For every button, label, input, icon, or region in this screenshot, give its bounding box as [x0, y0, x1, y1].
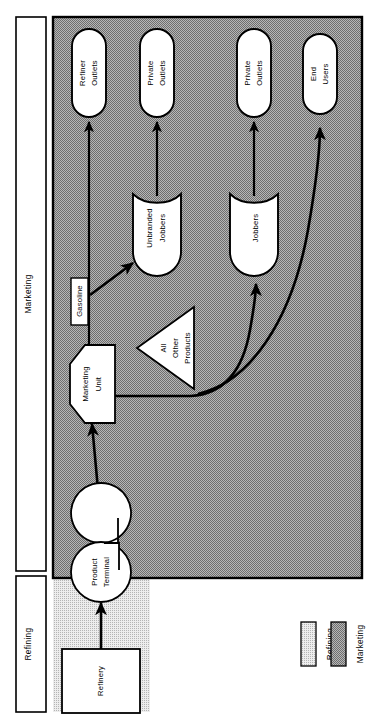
node-refinery[interactable]: Refinery: [62, 649, 140, 713]
node-private-outlets-a[interactable]: Private Outlets: [140, 29, 174, 117]
marketing-unit-label-1: Marketing: [81, 366, 90, 401]
unbranded-jobbers-label-2: Jobbers: [158, 214, 167, 242]
jobbers-label: Jobbers: [251, 214, 260, 242]
product-terminal-label-2: Terminal: [102, 557, 111, 587]
node-marketing-unit[interactable]: Marketing Unit: [70, 345, 115, 423]
marketing-unit-label-2: Unit: [94, 376, 103, 391]
legend: Refining Marketing: [301, 622, 365, 666]
gasoline-label: Gasoline: [75, 285, 84, 317]
private-outlets-a-label-1: Private: [146, 60, 155, 85]
end-users-label-2: Users: [321, 64, 330, 85]
unbranded-jobbers-shape: [133, 194, 181, 276]
legend-swatch-marketing: [331, 622, 346, 666]
private-outlets-a-label-2: Outlets: [158, 60, 167, 85]
end-users-label-1: End: [309, 67, 318, 81]
all-other-products-label-3: Products: [183, 332, 192, 364]
side-label-bands: Marketing Refining: [16, 17, 46, 712]
legend-item-marketing: Marketing: [331, 622, 365, 666]
product-terminal-shape: [71, 483, 131, 543]
private-outlets-b-label-1: Private: [243, 60, 252, 85]
refiner-outlets-label-2: Outlets: [90, 60, 99, 85]
private-outlets-b-label-2: Outlets: [255, 60, 264, 85]
refinery-label: Refinery: [96, 666, 105, 696]
product-terminal-circle: [71, 542, 131, 602]
node-end-users[interactable]: End Users: [303, 34, 337, 114]
legend-label-marketing: Marketing: [356, 625, 365, 664]
refining-band-label: Refining: [24, 627, 33, 660]
node-private-outlets-b[interactable]: Private Outlets: [237, 29, 271, 117]
node-refiner-outlets[interactable]: Refiner Outlets: [72, 29, 106, 117]
unbranded-jobbers-label-1: Unbranded: [145, 208, 154, 247]
node-unbranded-jobbers[interactable]: Unbranded Jobbers: [133, 194, 181, 276]
node-gasoline[interactable]: Gasoline: [71, 278, 88, 325]
all-other-products-label-2: Other: [171, 338, 180, 358]
all-other-products-label-1: All: [159, 343, 168, 352]
refiner-outlets-label-1: Refiner: [78, 60, 87, 86]
legend-item-refining: Refining: [301, 622, 335, 666]
node-jobbers[interactable]: Jobbers: [230, 194, 278, 276]
product-terminal-label-1: Product: [90, 558, 99, 586]
legend-swatch-refining: [301, 622, 316, 666]
marketing-unit-shape: [70, 345, 115, 423]
marketing-band-label: Marketing: [24, 274, 33, 313]
flow-diagram-canvas: Marketing Refining Refinery: [0, 0, 378, 728]
diagram-root: Marketing Refining Refinery: [0, 0, 378, 728]
